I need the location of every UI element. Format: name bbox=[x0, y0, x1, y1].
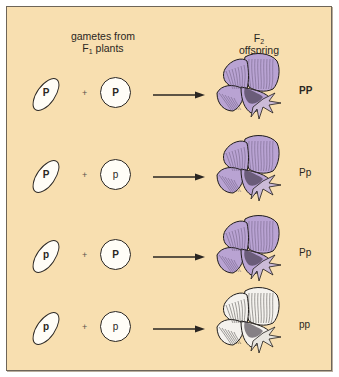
plants-label: plants bbox=[93, 42, 124, 54]
gametes-heading: gametes from F1 plants bbox=[53, 30, 153, 54]
egg-allele: p bbox=[113, 169, 119, 180]
gametes-heading-line1: gametes from bbox=[53, 30, 153, 42]
right-arrow-icon bbox=[153, 173, 205, 181]
plus-sign: + bbox=[82, 88, 87, 98]
pea-flower-icon bbox=[211, 281, 297, 361]
pollen-allele: P bbox=[38, 169, 54, 180]
offspring-genotype: Pp bbox=[299, 247, 311, 258]
offspring-genotype: Pp bbox=[299, 167, 311, 178]
diagram-frame: gametes from F1 plants F2 offspring P + … bbox=[6, 6, 332, 371]
cross-row-4: p + p pp bbox=[7, 297, 333, 367]
pea-flower-icon bbox=[211, 209, 297, 289]
offspring-heading-line1: F2 bbox=[209, 32, 309, 44]
plus-sign: + bbox=[82, 250, 87, 260]
circle-egg-gamete-icon: P bbox=[100, 77, 131, 108]
offspring-genotype: PP bbox=[299, 85, 312, 96]
right-arrow-icon bbox=[153, 91, 205, 99]
egg-allele: p bbox=[113, 321, 119, 332]
cross-row-1: P + P PP bbox=[7, 63, 333, 133]
gametes-heading-line2: F1 plants bbox=[53, 42, 153, 54]
right-arrow-icon bbox=[153, 253, 205, 261]
pollen-allele: p bbox=[38, 321, 54, 332]
pea-flower-icon bbox=[211, 129, 297, 209]
pollen-allele: p bbox=[38, 249, 54, 260]
plus-sign: + bbox=[82, 322, 87, 332]
pea-flower-icon bbox=[211, 47, 297, 127]
egg-allele: P bbox=[112, 87, 119, 98]
circle-egg-gamete-icon: p bbox=[100, 311, 131, 342]
offspring-genotype: pp bbox=[299, 319, 310, 330]
right-arrow-icon bbox=[153, 325, 205, 333]
cross-row-2: P + p Pp bbox=[7, 145, 333, 215]
egg-allele: P bbox=[112, 249, 119, 260]
circle-egg-gamete-icon: P bbox=[100, 239, 131, 270]
circle-egg-gamete-icon: p bbox=[100, 159, 131, 190]
plus-sign: + bbox=[82, 170, 87, 180]
pollen-allele: P bbox=[38, 87, 54, 98]
